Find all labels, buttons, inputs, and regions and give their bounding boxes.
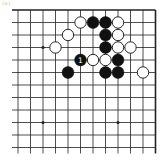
star-point-icon [41, 121, 44, 124]
white-stone-icon [87, 54, 98, 65]
white-stone-icon [112, 17, 123, 28]
white-stone-icon [112, 29, 123, 40]
black-stone-icon [100, 42, 112, 54]
black-stone-icon [100, 67, 112, 79]
white-stone-icon [125, 42, 136, 53]
black-stone-icon [87, 17, 99, 29]
move-number-label: 1 [78, 56, 83, 65]
black-stone-icon [100, 17, 112, 29]
white-stone-icon [137, 67, 148, 78]
white-stone-icon [62, 29, 73, 40]
black-stone-icon [100, 29, 112, 41]
star-point-icon [41, 46, 44, 49]
black-stone-icon [112, 54, 124, 66]
black-stone-icon [112, 67, 124, 79]
white-stone-icon [75, 17, 86, 28]
white-stone-icon [112, 42, 123, 53]
star-point-icon [116, 121, 119, 124]
go-board: 1 [0, 0, 166, 166]
black-stone-icon [62, 67, 74, 79]
white-stone-icon [50, 42, 61, 53]
white-stone-icon [100, 54, 111, 65]
